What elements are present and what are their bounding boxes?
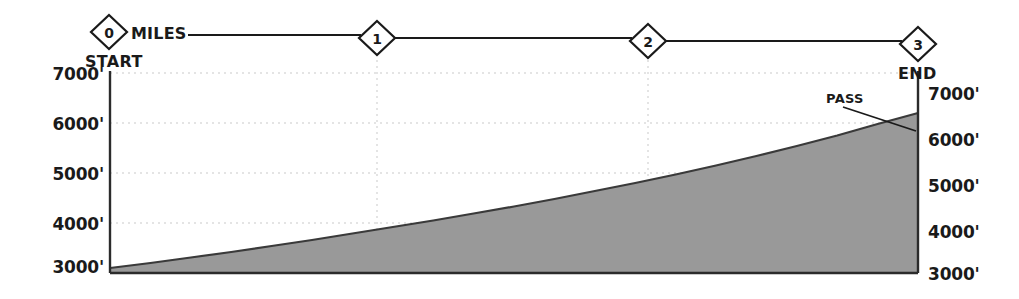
mile-marker-3-label: 3 <box>908 38 928 52</box>
elevation-area-fill <box>110 113 918 273</box>
left-axis-tick-5000: 5000' <box>36 166 104 183</box>
mile-marker-0-label: 0 <box>99 26 119 40</box>
mile-marker-1-label: 1 <box>367 32 387 46</box>
miles-unit-label: MILES <box>131 26 187 42</box>
elevation-profile-svg <box>0 0 1019 299</box>
left-axis-tick-7000: 7000' <box>36 66 104 83</box>
right-axis-tick-5000: 5000' <box>928 178 980 195</box>
right-axis-tick-3000: 3000' <box>928 266 980 283</box>
elevation-profile-chart: 0 1 2 3 MILES START END PASS 7000' 6000'… <box>0 0 1019 299</box>
right-axis-tick-7000: 7000' <box>928 86 980 103</box>
scale-bar-line <box>188 35 902 41</box>
mile-marker-2-label: 2 <box>638 35 658 49</box>
left-axis-tick-3000: 3000' <box>36 259 104 276</box>
end-label: END <box>898 66 937 82</box>
right-axis-tick-4000: 4000' <box>928 224 980 241</box>
left-axis-tick-6000: 6000' <box>36 116 104 133</box>
left-axis-tick-4000: 4000' <box>36 216 104 233</box>
pass-annotation-label: PASS <box>826 92 864 105</box>
right-axis-tick-6000: 6000' <box>928 132 980 149</box>
